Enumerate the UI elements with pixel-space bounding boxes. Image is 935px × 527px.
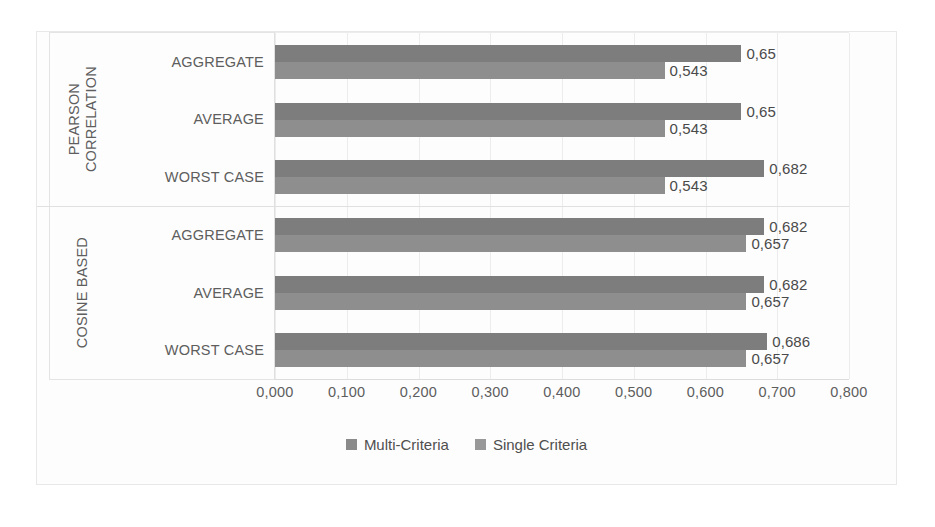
axis-tick-label: 0,300 — [472, 384, 509, 400]
bar-group-pearson-average: 0,65 0,543 — [275, 91, 849, 149]
bar-value-label-multi: 0,65 — [741, 45, 776, 62]
bar-group-cosine-aggregate: 0,682 0,657 — [275, 206, 849, 264]
axis-tick-label: 0,500 — [615, 384, 652, 400]
bar-single-criteria[interactable] — [275, 235, 746, 252]
group-title-text: COSINE BASED — [74, 237, 91, 348]
axis-tick-label: 0,100 — [328, 384, 365, 400]
bar-multi-criteria[interactable] — [275, 333, 767, 350]
bar-value-label-multi: 0,682 — [764, 276, 807, 293]
axis-tick-label: 0,400 — [543, 384, 580, 400]
bar-row-multi: 0,65 — [275, 45, 849, 62]
bar-row-multi: 0,682 — [275, 218, 849, 235]
axis-tick-label: 0,000 — [256, 384, 293, 400]
bar-row-single: 0,657 — [275, 350, 849, 367]
bar-single-criteria[interactable] — [275, 62, 665, 79]
legend-item-single-criteria[interactable]: Single Criteria — [475, 436, 587, 453]
bars-plot-area: 0,65 0,543 0,65 0,543 — [275, 32, 849, 380]
category-label-cosine-worst-case: WORST CASE — [116, 342, 264, 358]
bar-groups: 0,65 0,543 0,65 0,543 — [275, 33, 849, 379]
bar-row-single: 0,657 — [275, 235, 849, 252]
bar-value-label-single: 0,657 — [746, 293, 789, 310]
category-label-pearson-average: AVERAGE — [116, 111, 264, 127]
subcategory-list-pearson: AGGREGATE AVERAGE WORST CASE — [116, 33, 274, 206]
bar-single-criteria[interactable] — [275, 120, 665, 137]
legend-label: Multi-Criteria — [364, 436, 449, 453]
category-label-pearson-aggregate: AGGREGATE — [116, 54, 264, 70]
bar-value-label-single: 0,657 — [746, 235, 789, 252]
bar-multi-criteria[interactable] — [275, 103, 741, 120]
bar-multi-criteria[interactable] — [275, 45, 741, 62]
bar-group-cosine-worst-case: 0,686 0,657 — [275, 321, 849, 379]
bar-value-label-single: 0,657 — [746, 350, 789, 367]
axis-tick-label: 0,700 — [759, 384, 796, 400]
axis-tick-label: 0,200 — [400, 384, 437, 400]
chart-figure: PEARSON CORRELATION AGGREGATE AVERAGE WO… — [36, 31, 897, 485]
bar-row-single: 0,657 — [275, 293, 849, 310]
bar-single-criteria[interactable] — [275, 293, 746, 310]
bar-value-label-single: 0,543 — [665, 177, 708, 194]
category-group-cosine-based: COSINE BASED AGGREGATE AVERAGE WORST CAS… — [50, 206, 274, 380]
axis-tick-label: 0,600 — [687, 384, 724, 400]
bar-group-pearson-worst-case: 0,682 0,543 — [275, 148, 849, 206]
bar-multi-criteria[interactable] — [275, 276, 764, 293]
bar-value-label-multi: 0,682 — [764, 218, 807, 235]
group-title-cosine-based: COSINE BASED — [50, 207, 116, 380]
bar-single-criteria[interactable] — [275, 177, 665, 194]
chart-legend: Multi-Criteria Single Criteria — [37, 436, 896, 453]
bar-value-label-multi: 0,65 — [741, 103, 776, 120]
group-title-pearson-correlation: PEARSON CORRELATION — [50, 33, 116, 206]
gridline-8 — [849, 33, 850, 379]
bar-row-single: 0,543 — [275, 177, 849, 194]
group-title-line2: CORRELATION — [83, 66, 99, 172]
category-group-pearson-correlation: PEARSON CORRELATION AGGREGATE AVERAGE WO… — [50, 33, 274, 206]
bar-single-criteria[interactable] — [275, 350, 746, 367]
bar-value-label-multi: 0,682 — [764, 160, 807, 177]
category-label-cosine-aggregate: AGGREGATE — [116, 227, 264, 243]
bar-row-multi: 0,682 — [275, 276, 849, 293]
bar-row-single: 0,543 — [275, 62, 849, 79]
category-label-pearson-worst-case: WORST CASE — [116, 169, 264, 185]
bar-row-single: 0,543 — [275, 120, 849, 137]
value-axis: 0,0000,1000,2000,3000,4000,5000,6000,700… — [275, 384, 849, 410]
legend-swatch-icon — [346, 439, 357, 450]
bar-group-cosine-average: 0,682 0,657 — [275, 264, 849, 322]
bar-row-multi: 0,682 — [275, 160, 849, 177]
bar-value-label-single: 0,543 — [665, 62, 708, 79]
bar-row-multi: 0,686 — [275, 333, 849, 350]
bar-group-pearson-aggregate: 0,65 0,543 — [275, 33, 849, 91]
plot-region: PEARSON CORRELATION AGGREGATE AVERAGE WO… — [37, 32, 896, 380]
bar-value-label-single: 0,543 — [665, 120, 708, 137]
bar-multi-criteria[interactable] — [275, 218, 764, 235]
legend-item-multi-criteria[interactable]: Multi-Criteria — [346, 436, 449, 453]
group-title-text: PEARSON CORRELATION — [66, 66, 100, 172]
axis-tick-label: 0,800 — [830, 384, 867, 400]
subcategory-list-cosine: AGGREGATE AVERAGE WORST CASE — [116, 207, 274, 380]
bar-value-label-multi: 0,686 — [767, 333, 810, 350]
legend-swatch-icon — [475, 439, 486, 450]
category-label-cosine-average: AVERAGE — [116, 285, 264, 301]
group-title-line1: COSINE BASED — [74, 237, 90, 348]
group-title-line1: PEARSON — [66, 83, 82, 155]
legend-label: Single Criteria — [493, 436, 587, 453]
bar-multi-criteria[interactable] — [275, 160, 764, 177]
bar-row-multi: 0,65 — [275, 103, 849, 120]
